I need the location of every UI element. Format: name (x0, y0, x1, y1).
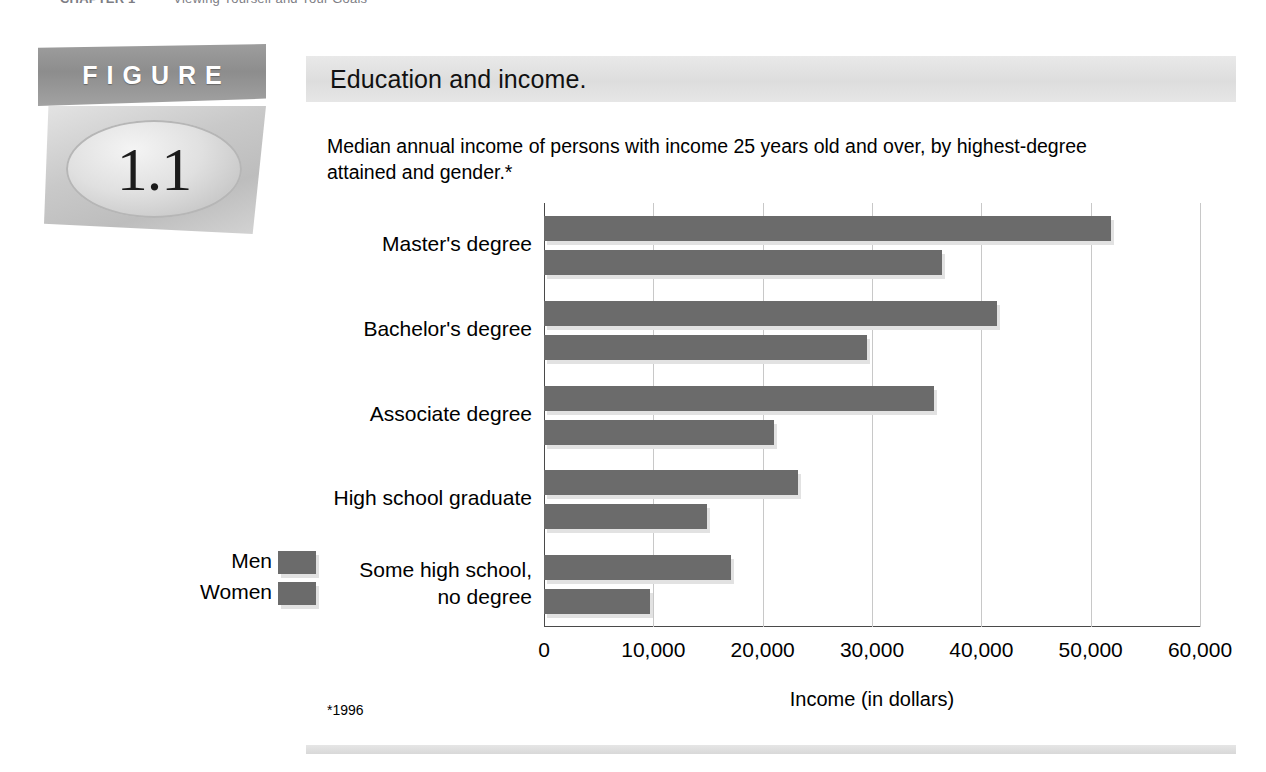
bar-men-3 (544, 470, 798, 495)
x-tick-label-5: 50,000 (1059, 638, 1123, 662)
gridline (1200, 203, 1201, 627)
bottom-rule (306, 745, 1236, 754)
category-label-3: High school graduate (286, 484, 532, 511)
figure-title-band: Education and income. (306, 56, 1236, 102)
gridline (1091, 203, 1092, 627)
bar-women-2 (544, 420, 774, 445)
x-tick-label-0: 0 (538, 638, 550, 662)
x-tick-label-6: 60,000 (1168, 638, 1232, 662)
bar-men-1 (544, 301, 997, 326)
legend-swatch-women (278, 582, 316, 605)
figure-caption: Median annual income of persons with inc… (327, 133, 1117, 185)
bar-women-3 (544, 504, 707, 529)
category-label-2: Associate degree (286, 400, 532, 427)
gridline (981, 203, 982, 627)
figure-title: Education and income. (330, 65, 586, 94)
running-head-title: Viewing Yourself and Your Goals (173, 0, 367, 6)
x-axis-title: Income (in dollars) (544, 688, 1200, 711)
category-label-4: Some high school,no degree (286, 556, 532, 610)
legend-label-men: Men (231, 549, 272, 573)
x-tick-label-2: 20,000 (731, 638, 795, 662)
legend-item-men: Men (196, 548, 316, 579)
category-label-line: no degree (286, 583, 532, 610)
plot-area (544, 203, 1200, 627)
category-label-line: Bachelor's degree (286, 315, 532, 342)
bar-men-4 (544, 555, 731, 580)
bar-women-1 (544, 335, 867, 360)
category-label-line: Associate degree (286, 400, 532, 427)
bar-men-0 (544, 216, 1111, 241)
x-tick-label-3: 30,000 (840, 638, 904, 662)
bar-women-0 (544, 250, 942, 275)
category-label-line: Master's degree (286, 230, 532, 257)
figure-number: 1.1 (66, 120, 242, 218)
chart-legend: Men Women (196, 548, 316, 610)
legend-label-women: Women (200, 580, 272, 604)
running-head: CHAPTER 1 Viewing Yourself and Your Goal… (0, 0, 1266, 16)
figure-badge: FIGURE 1.1 (38, 44, 303, 234)
category-label-line: High school graduate (286, 484, 532, 511)
bar-women-4 (544, 589, 650, 614)
running-head-chapter: CHAPTER 1 (60, 0, 135, 6)
figure-footnote: *1996 (327, 702, 364, 718)
category-label-1: Bachelor's degree (286, 315, 532, 342)
legend-swatch-men (278, 551, 316, 574)
x-tick-label-1: 10,000 (621, 638, 685, 662)
category-label-line: Some high school, (286, 556, 532, 583)
category-label-0: Master's degree (286, 230, 532, 257)
x-tick-label-4: 40,000 (949, 638, 1013, 662)
legend-item-women: Women (196, 579, 316, 610)
figure-banner-label: FIGURE (38, 44, 266, 106)
bar-men-2 (544, 386, 934, 411)
